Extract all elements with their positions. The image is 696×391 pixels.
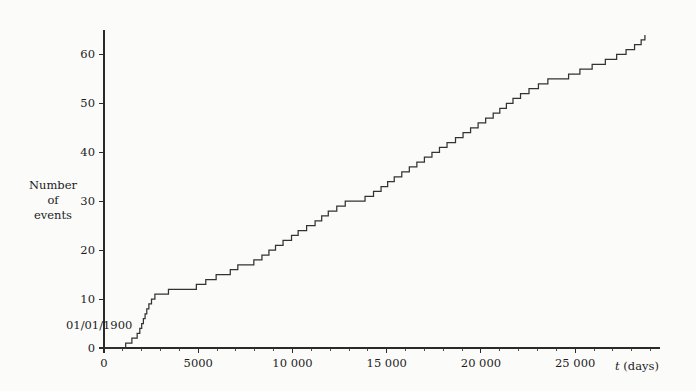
x-axis-tick-label: 5000 [184,356,213,370]
y-axis-title-line-1: Number [16,178,90,193]
x-axis-tick-label: 20 000 [461,356,501,370]
tick-labels-layer: 0500010 00015 00020 00025 00001020304050… [80,47,595,370]
y-axis-tick-label: 50 [80,96,95,110]
y-axis-tick-label: 60 [80,47,95,61]
x-axis-title-unit: (days) [623,359,659,373]
chart-figure: 0500010 00015 00020 00025 00001020304050… [0,0,696,391]
y-axis-title-line-2: of [16,193,90,208]
axes-layer [104,30,660,348]
origin-date-annotation: 01/01/1900 [66,318,132,332]
x-axis-title-symbol: t [615,359,620,373]
x-axis-tick-label: 0 [100,356,107,370]
y-axis-tick-label: 0 [88,341,95,355]
step-curve-layer [104,35,645,348]
x-axis-tick-label: 10 000 [272,356,312,370]
y-axis-title: Number of events [16,178,90,223]
y-axis-title-line-3: events [16,208,90,223]
x-axis-tick-label: 25 000 [555,356,595,370]
x-axis-title: t (days) [615,359,659,373]
y-axis-tick-label: 20 [80,243,95,257]
x-axis-tick-label: 15 000 [367,356,407,370]
cumulative-events-step-curve [104,35,645,348]
y-axis-tick-label: 40 [80,145,95,159]
tick-marks-layer [99,54,651,353]
y-axis-tick-label: 10 [80,292,95,306]
